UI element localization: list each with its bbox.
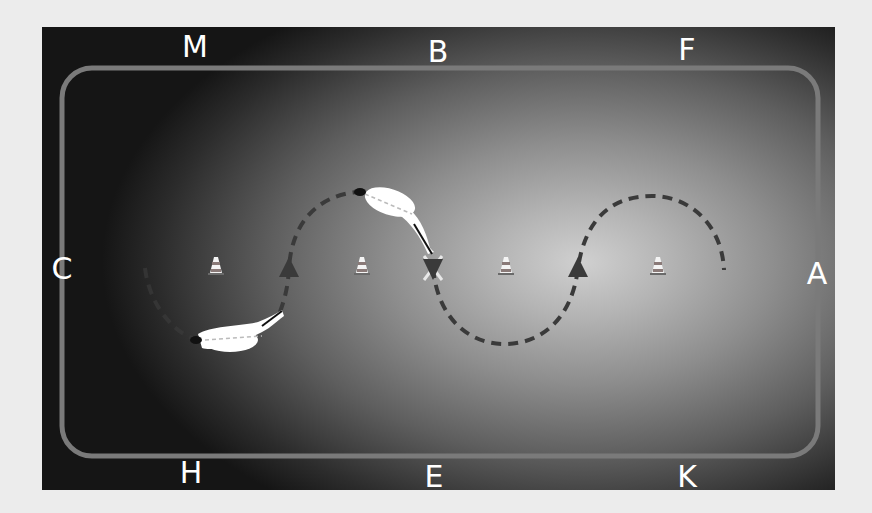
cone-icon: [354, 257, 370, 275]
arrow-up-icon: [279, 257, 299, 277]
serpentine-path: [145, 268, 200, 340]
arena-letter-k: K: [677, 462, 697, 490]
arrow-up-icon: [568, 257, 588, 277]
cone-icon: [208, 257, 224, 275]
arena-letter-h: H: [180, 458, 203, 488]
arena-letter-m: M: [182, 32, 208, 62]
arena-letter-b: B: [428, 37, 449, 67]
horse-icon: [190, 310, 284, 352]
arena-letter-a: A: [807, 259, 828, 289]
arena-letter-e: E: [425, 462, 444, 490]
arena-diagram: M B F H E K C A: [42, 27, 835, 490]
arena-letter-f: F: [678, 35, 695, 65]
arena-letter-c: C: [52, 254, 73, 284]
horse-icon: [354, 182, 434, 254]
serpentine-path: [280, 192, 358, 312]
cone-icon: [498, 257, 514, 275]
cone-icon: [650, 257, 666, 275]
